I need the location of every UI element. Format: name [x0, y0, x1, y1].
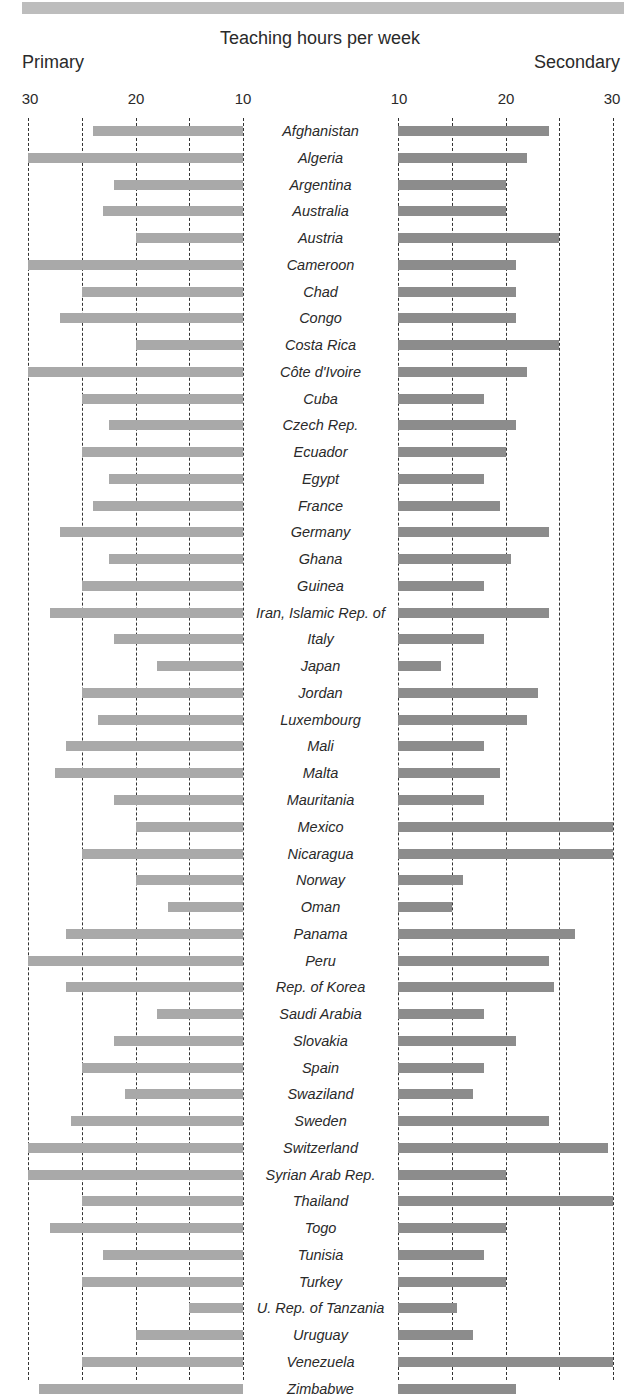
country-label: Cameroon	[243, 256, 398, 274]
primary-bar	[66, 741, 243, 751]
secondary-bar	[398, 1330, 473, 1340]
country-label: Japan	[243, 657, 398, 675]
secondary-bar	[398, 1250, 484, 1260]
secondary-bar	[398, 982, 554, 992]
tick-left-30: 30	[22, 90, 39, 107]
secondary-bar	[398, 153, 527, 163]
country-label: Germany	[243, 523, 398, 541]
country-label: Panama	[243, 925, 398, 943]
country-label: U. Rep. of Tanzania	[243, 1299, 398, 1317]
secondary-bar	[398, 501, 500, 511]
primary-bar	[39, 1384, 243, 1394]
country-label: Syrian Arab Rep.	[243, 1166, 398, 1184]
country-label: Thailand	[243, 1192, 398, 1210]
country-label: Sweden	[243, 1112, 398, 1130]
primary-bar	[66, 982, 243, 992]
secondary-bar	[398, 929, 575, 939]
primary-bar	[114, 795, 243, 805]
country-label: France	[243, 497, 398, 515]
primary-bar	[82, 581, 243, 591]
secondary-bar	[398, 956, 549, 966]
country-label: Norway	[243, 871, 398, 889]
secondary-bar	[398, 608, 549, 618]
primary-bar	[168, 902, 243, 912]
secondary-bar	[398, 1357, 613, 1367]
tick-left-10: 10	[235, 90, 252, 107]
secondary-bar	[398, 1223, 506, 1233]
secondary-bar	[398, 206, 506, 216]
primary-bar	[28, 153, 243, 163]
country-label: Congo	[243, 309, 398, 327]
secondary-bar	[398, 1036, 516, 1046]
gridline	[28, 118, 29, 1380]
primary-bar	[109, 554, 243, 564]
country-label: Chad	[243, 283, 398, 301]
country-label: Afghanistan	[243, 122, 398, 140]
primary-bar	[93, 501, 244, 511]
primary-bar	[136, 875, 244, 885]
tick-right-20: 20	[498, 90, 515, 107]
country-label: Ghana	[243, 550, 398, 568]
primary-bar	[157, 661, 243, 671]
primary-bar	[136, 340, 244, 350]
secondary-bar	[398, 822, 613, 832]
gridline	[613, 118, 614, 1380]
secondary-bar	[398, 1143, 608, 1153]
secondary-bar	[398, 554, 511, 564]
country-label: Argentina	[243, 176, 398, 194]
primary-bar	[28, 1170, 243, 1180]
primary-bar	[55, 768, 243, 778]
primary-bar	[114, 1036, 243, 1046]
primary-bar	[71, 1116, 243, 1126]
primary-bar	[28, 956, 243, 966]
primary-bar	[60, 527, 243, 537]
secondary-bar	[398, 634, 484, 644]
country-label: Austria	[243, 229, 398, 247]
secondary-bar	[398, 768, 500, 778]
primary-bar	[28, 1143, 243, 1153]
secondary-bar	[398, 367, 527, 377]
country-label: Peru	[243, 952, 398, 970]
country-label: Italy	[243, 630, 398, 648]
country-label: Venezuela	[243, 1353, 398, 1371]
country-label: Ecuador	[243, 443, 398, 461]
country-label: Costa Rica	[243, 336, 398, 354]
primary-bar	[82, 287, 243, 297]
secondary-bar	[398, 287, 516, 297]
country-label: Australia	[243, 202, 398, 220]
secondary-bar	[398, 313, 516, 323]
primary-bar	[98, 715, 243, 725]
primary-bar	[82, 447, 243, 457]
tick-left-20: 20	[128, 90, 145, 107]
secondary-bar	[398, 180, 506, 190]
primary-bar	[157, 1009, 243, 1019]
country-label: Slovakia	[243, 1032, 398, 1050]
country-label: Algeria	[243, 149, 398, 167]
country-label: Tunisia	[243, 1246, 398, 1264]
secondary-label: Secondary	[534, 52, 620, 73]
secondary-bar	[398, 447, 506, 457]
secondary-bar	[398, 474, 484, 484]
primary-bar	[66, 929, 243, 939]
secondary-bar	[398, 581, 484, 591]
primary-bar	[125, 1089, 243, 1099]
chart-title: Teaching hours per week	[0, 28, 640, 49]
primary-bar	[82, 1196, 243, 1206]
secondary-bar	[398, 1089, 473, 1099]
country-label: Rep. of Korea	[243, 978, 398, 996]
secondary-bar	[398, 849, 613, 859]
secondary-bar	[398, 875, 463, 885]
secondary-bar	[398, 260, 516, 270]
primary-bar	[136, 1330, 244, 1340]
country-label: Mauritania	[243, 791, 398, 809]
secondary-bar	[398, 1277, 506, 1287]
secondary-bar	[398, 394, 484, 404]
secondary-bar	[398, 126, 549, 136]
secondary-bar	[398, 795, 484, 805]
primary-bar	[189, 1303, 243, 1313]
primary-bar	[136, 822, 244, 832]
secondary-bar	[398, 1170, 506, 1180]
secondary-bar	[398, 1384, 516, 1394]
header-band	[22, 2, 624, 14]
country-label: Guinea	[243, 577, 398, 595]
